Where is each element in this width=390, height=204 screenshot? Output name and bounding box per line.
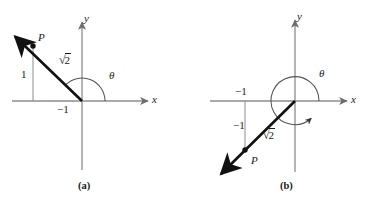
radical-argument: 2 xyxy=(269,128,276,141)
y-coordinate-label: 1 xyxy=(21,69,27,80)
point-label-p: P xyxy=(251,155,258,166)
point-label-p: P xyxy=(38,32,45,43)
angle-label-theta: θ xyxy=(319,68,324,79)
x-coordinate-label: −1 xyxy=(235,86,247,97)
magnitude-label: √2 xyxy=(59,54,71,66)
panel-a: y x P 1 −1 θ √2 (a) xyxy=(0,0,195,204)
magnitude-label: √2 xyxy=(263,129,275,141)
figure-container: y x P 1 −1 θ √2 (a) xyxy=(0,0,390,204)
panel-b: y x P −1 −1 θ √2 (b) xyxy=(195,0,390,204)
point-marker-p xyxy=(30,43,35,48)
angle-label-theta: θ xyxy=(109,70,114,81)
vector-line xyxy=(221,101,295,174)
x-axis-label: x xyxy=(152,94,157,105)
radical-argument: 2 xyxy=(65,53,72,66)
panel-b-graphic xyxy=(195,0,390,204)
panel-a-graphic xyxy=(0,0,195,204)
y-axis-label: y xyxy=(84,13,89,24)
y-coordinate-label: −1 xyxy=(233,120,245,131)
panel-caption-a: (a) xyxy=(78,181,90,192)
x-axis-label: x xyxy=(351,94,356,105)
point-marker-p xyxy=(242,147,247,152)
panel-caption-b: (b) xyxy=(280,181,293,192)
x-coordinate-label: −1 xyxy=(57,104,69,115)
y-axis-label: y xyxy=(297,11,302,22)
